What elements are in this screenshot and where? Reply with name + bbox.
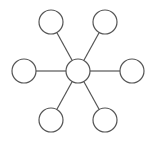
edge-hub-to-bottom-left (57, 82, 72, 110)
diagram-canvas (0, 0, 150, 145)
star-network-diagram (0, 0, 150, 145)
edge-hub-to-top-left (57, 33, 72, 61)
hub-node (66, 59, 90, 83)
node-top-right (93, 10, 117, 34)
edge-hub-to-bottom-right (84, 82, 99, 110)
node-left (12, 59, 36, 83)
node-top-left (39, 10, 63, 34)
edge-hub-to-top-right (84, 33, 99, 61)
node-right (120, 59, 144, 83)
node-bottom-right (93, 108, 117, 132)
node-bottom-left (39, 108, 63, 132)
